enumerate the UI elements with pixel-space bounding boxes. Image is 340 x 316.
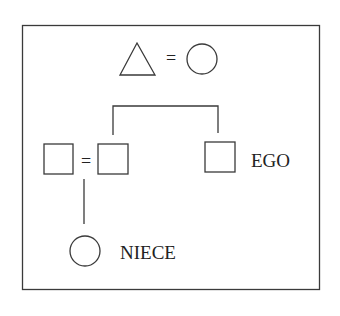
niece-circle-icon [70, 236, 100, 266]
legend-equals: = [166, 48, 176, 68]
sibling-square-icon [98, 144, 128, 174]
ego-square-icon [205, 142, 235, 172]
circle-icon [187, 44, 217, 74]
triangle-icon [120, 43, 155, 75]
niece-label: NIECE [120, 242, 176, 263]
spouse-square-icon [44, 144, 73, 174]
kinship-diagram: = = EGO NIECE [0, 0, 340, 316]
marriage-equals: = [81, 151, 91, 171]
ego-label: EGO [251, 150, 290, 171]
sibling-connector [113, 106, 218, 135]
